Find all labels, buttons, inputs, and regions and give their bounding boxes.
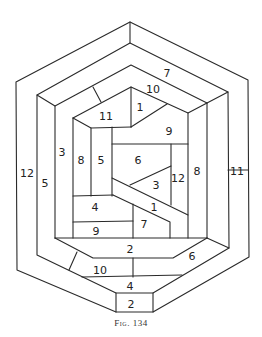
piece-label-inner-bottom-left: 9 bbox=[93, 225, 100, 238]
piece-label-ring2-bottom-left: 10 bbox=[93, 264, 107, 277]
figure-caption: Fig. 134 bbox=[0, 318, 262, 328]
piece-label-inner-top-right: 9 bbox=[166, 125, 173, 138]
puzzle-diagram: 121175103811198561231479261042 bbox=[0, 0, 262, 337]
piece-label-inner-lower-mid: 7 bbox=[141, 218, 148, 231]
piece-label-inner-lower-left: 4 bbox=[92, 201, 99, 214]
piece-label-inner-right-col: 12 bbox=[171, 172, 185, 185]
piece-label-ring1-bottom: 4 bbox=[127, 280, 134, 293]
piece-label-ring3-right: 8 bbox=[194, 165, 201, 178]
piece-label-ring3-top: 10 bbox=[146, 83, 160, 96]
piece-9-4-divider bbox=[73, 221, 133, 222]
piece-label-ring3-left: 3 bbox=[59, 146, 66, 159]
third-right-bottom bbox=[207, 238, 229, 248]
band-bottom bbox=[113, 195, 170, 238]
piece-label-inner-top-left: 11 bbox=[99, 110, 113, 123]
divider-11-10 bbox=[93, 87, 101, 102]
piece-label-ring2-bottom-right: 6 bbox=[189, 250, 196, 263]
ring-divider-5-10 bbox=[69, 252, 77, 270]
piece-label-inner-mid-col: 5 bbox=[98, 154, 105, 167]
piece-label-inner-top-mid: 1 bbox=[137, 101, 144, 114]
piece-labels: 121175103811198561231479261042 bbox=[20, 67, 244, 311]
piece-4-top bbox=[73, 195, 113, 196]
piece-label-ring2-left: 5 bbox=[42, 177, 49, 190]
piece-label-ring2-top: 7 bbox=[164, 67, 171, 80]
piece-label-inner-center: 6 bbox=[135, 154, 142, 167]
piece-label-inner-band: 1 bbox=[151, 201, 158, 214]
piece-label-outer-left: 12 bbox=[20, 167, 34, 180]
piece-label-outer-right: 11 bbox=[230, 165, 244, 178]
piece-label-inner-left-col: 8 bbox=[78, 154, 85, 167]
piece-3-diagonal bbox=[130, 166, 171, 185]
third-hexagon bbox=[37, 65, 228, 106]
piece-label-inner-triangle: 3 bbox=[153, 179, 160, 192]
piece-label-outer-bottom: 2 bbox=[128, 298, 135, 311]
piece-label-ring3-bottom: 2 bbox=[127, 243, 134, 256]
